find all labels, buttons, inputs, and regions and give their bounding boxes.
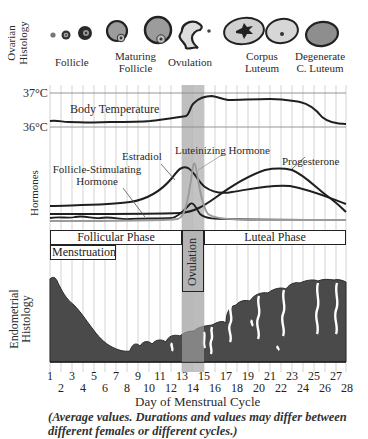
day-8: 8 bbox=[120, 382, 134, 394]
stage-label-ovulation: Ovulation bbox=[168, 56, 212, 68]
luteal-phase-box: Luteal Phase bbox=[204, 230, 346, 245]
day-14: 14 bbox=[186, 382, 200, 394]
hormones-axis-label: Hormones bbox=[28, 168, 42, 218]
progesterone-label: Progesterone bbox=[282, 155, 339, 167]
lh-label: Luteinizing Hormone bbox=[175, 144, 270, 156]
day-3: 3 bbox=[65, 370, 79, 382]
day-18: 18 bbox=[230, 382, 244, 394]
follicle-icon-1 bbox=[50, 32, 55, 37]
stage-label-maturing-follicle: Maturing Follicle bbox=[115, 50, 156, 74]
day-7: 7 bbox=[109, 370, 123, 382]
note-line-2: different females or different cycles.) bbox=[48, 424, 237, 439]
ovulation-icon bbox=[179, 22, 201, 49]
follicular-phase-box: Follicular Phase bbox=[50, 230, 182, 245]
day-10: 10 bbox=[142, 382, 156, 394]
day-4: 4 bbox=[76, 382, 90, 394]
menstruation-box: Menstruation bbox=[50, 245, 116, 260]
corpus-luteum-icon-2 bbox=[264, 16, 300, 45]
day-1: 1 bbox=[43, 370, 57, 382]
fsh-label: Follicle-Stimulating Hormone bbox=[46, 163, 148, 187]
body-temperature-label: Body Temperature bbox=[70, 103, 159, 115]
endometrial-axis-label: Endometrial Histology bbox=[8, 286, 34, 352]
ovarian-axis-label: Ovarian Histology bbox=[5, 13, 31, 73]
day-12: 12 bbox=[164, 382, 178, 394]
temp-tick-37: 37°C bbox=[23, 87, 48, 99]
estradiol-label: Estradiol bbox=[122, 150, 162, 162]
day-6: 6 bbox=[98, 382, 112, 394]
stage-label-follicle: Follicle bbox=[55, 56, 89, 68]
ovarian-icons bbox=[50, 15, 339, 48]
temp-tick-36: 36°C bbox=[23, 121, 48, 133]
day-2: 2 bbox=[54, 382, 68, 394]
day-26: 26 bbox=[318, 382, 332, 394]
day-28: 28 bbox=[340, 382, 354, 394]
note-line-1: (Average values. Durations and values ma… bbox=[48, 410, 347, 425]
ovulation-label: Ovulation bbox=[186, 232, 200, 292]
day-5: 5 bbox=[87, 370, 101, 382]
x-axis-title: Day of Menstrual Cycle bbox=[135, 395, 260, 409]
day-20: 20 bbox=[252, 382, 266, 394]
day-24: 24 bbox=[296, 382, 310, 394]
day-22: 22 bbox=[274, 382, 288, 394]
degenerate-corpus-luteum-icon bbox=[304, 20, 339, 48]
stage-label-corpus-luteum: Corpus Luteum bbox=[240, 50, 284, 74]
day-16: 16 bbox=[208, 382, 222, 394]
stage-label-degenerate-c-luteum: Degenerate C. Luteum bbox=[290, 50, 350, 74]
